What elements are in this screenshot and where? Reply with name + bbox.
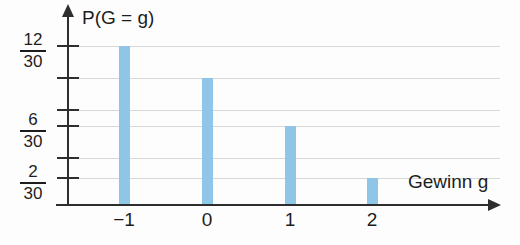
bar-g-minus1 — [119, 46, 130, 205]
x-axis-arrowhead-icon — [488, 199, 501, 211]
y-tick-label-2-30: 2 30 — [10, 163, 56, 202]
bar-g-1 — [285, 126, 296, 205]
y-tick-6-30 — [57, 125, 79, 127]
y-tick-label-12-30-denominator: 30 — [10, 53, 56, 70]
y-tick-label-6-30: 6 30 — [10, 111, 56, 150]
x-tick-label-0: 0 — [187, 210, 227, 229]
y-tick-label-6-30-numerator: 6 — [10, 111, 56, 129]
x-tick-label-2: 2 — [352, 210, 392, 229]
x-tick-label-minus1: −1 — [104, 210, 144, 229]
y-tick-label-12-30: 12 30 — [10, 31, 56, 70]
x-tick-label-1: 1 — [270, 210, 310, 229]
gridline-8-30 — [68, 110, 500, 111]
gridline-10-30 — [68, 78, 500, 79]
y-tick-4-30 — [57, 157, 79, 159]
x-axis-line — [56, 204, 490, 206]
y-tick-label-12-30-numerator: 12 — [10, 31, 56, 49]
y-tick-10-30 — [57, 77, 79, 79]
y-tick-2-30 — [57, 177, 79, 179]
y-axis-title: P(G = g) — [82, 8, 154, 27]
bar-g-2 — [367, 178, 378, 205]
y-tick-12-30 — [57, 45, 79, 47]
gridline-12-30 — [68, 46, 500, 47]
y-axis-arrowhead-icon — [62, 4, 74, 17]
y-tick-label-2-30-denominator: 30 — [10, 185, 56, 202]
x-axis-title: Gewinn g — [408, 172, 488, 191]
probability-bar-chart: 12 30 6 30 2 30 −1 0 1 2 P(G = g) Gewinn… — [0, 0, 520, 245]
y-tick-8-30 — [57, 109, 79, 111]
gridline-6-30 — [68, 126, 500, 127]
gridline-4-30 — [68, 158, 500, 159]
bar-g-0 — [202, 78, 213, 205]
y-tick-label-6-30-denominator: 30 — [10, 133, 56, 150]
y-tick-label-2-30-numerator: 2 — [10, 163, 56, 181]
